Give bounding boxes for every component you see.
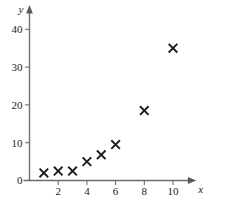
data-point-2 bbox=[54, 167, 63, 176]
y-tick-label-40: 40 bbox=[12, 23, 24, 35]
x-axis-arrow bbox=[188, 177, 197, 184]
y-axis-arrow bbox=[26, 5, 33, 14]
y-tick-label-0: 0 bbox=[17, 174, 23, 186]
axes-group bbox=[24, 5, 197, 184]
y-tick-label-10: 10 bbox=[12, 137, 24, 149]
data-point-3 bbox=[68, 167, 77, 176]
scatter-plot-figure: 010203040246810 yx bbox=[0, 0, 227, 201]
axis-names-group: yx bbox=[18, 3, 204, 195]
data-point-8 bbox=[169, 44, 178, 53]
y-axis-label: y bbox=[18, 3, 24, 15]
x-axis-label: x bbox=[197, 183, 203, 195]
data-markers-group bbox=[40, 44, 178, 177]
x-tick-label-8: 8 bbox=[142, 185, 148, 197]
data-point-7 bbox=[140, 106, 149, 115]
x-tick-label-2: 2 bbox=[55, 185, 61, 197]
x-tick-label-10: 10 bbox=[168, 185, 180, 197]
y-tick-label-20: 20 bbox=[12, 99, 24, 111]
data-point-4 bbox=[83, 157, 92, 166]
x-tick-label-6: 6 bbox=[113, 185, 119, 197]
data-point-1 bbox=[40, 169, 49, 178]
data-point-5 bbox=[97, 150, 106, 159]
y-tick-label-30: 30 bbox=[12, 61, 24, 73]
plot-canvas: 010203040246810 yx bbox=[0, 0, 227, 201]
data-point-6 bbox=[111, 140, 120, 149]
tick-labels-group: 010203040246810 bbox=[12, 23, 180, 197]
x-tick-label-4: 4 bbox=[84, 185, 90, 197]
ticks-group bbox=[25, 29, 173, 185]
